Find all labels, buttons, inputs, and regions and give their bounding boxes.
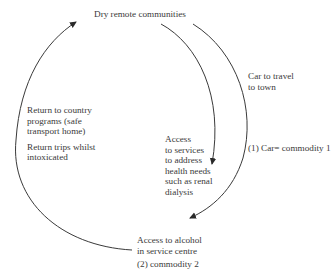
edge-label-line: Return trips whilst bbox=[27, 142, 95, 153]
node-label-line: in service centre bbox=[137, 246, 202, 257]
edge-label-return-home: Return to country programs (safe transpo… bbox=[27, 105, 95, 163]
edge-label-line: intoxicated bbox=[27, 152, 95, 163]
edge-label-line: health needs bbox=[165, 166, 212, 177]
node-access-to-alcohol: Access to alcohol in service centre (2) … bbox=[137, 235, 202, 270]
node-label: Dry remote communities bbox=[94, 9, 186, 20]
node-label-line: Access to alcohol bbox=[137, 235, 202, 246]
edge-label-line: to town bbox=[248, 82, 294, 93]
edge-label-car-to-travel: Car to travel to town bbox=[248, 71, 294, 92]
edge-label-line: to address bbox=[165, 155, 212, 166]
commodity-2-tag: (2) commodity 2 bbox=[137, 259, 202, 270]
cycle-diagram: Dry remote communities Car to travel to … bbox=[0, 0, 332, 279]
edge-label-line: Car to travel bbox=[248, 71, 294, 82]
edge-label-line: programs (safe bbox=[27, 116, 95, 127]
edge-label-access-services: Access to services to address health nee… bbox=[165, 134, 212, 198]
edge-label-line: dialysis bbox=[165, 187, 212, 198]
edge-label-line: such as renal bbox=[165, 176, 212, 187]
edge-label-line: Access bbox=[165, 134, 212, 145]
edge-label-line: transport home) bbox=[27, 126, 95, 137]
edge-label-line: to services bbox=[165, 145, 212, 156]
edge-label-line: Return to country bbox=[27, 105, 95, 116]
commodity-1-tag: (1) Car= commodity 1 bbox=[248, 143, 331, 154]
edge-tag-commodity-1: (1) Car= commodity 1 bbox=[248, 143, 331, 154]
node-dry-remote-communities: Dry remote communities bbox=[94, 9, 186, 20]
